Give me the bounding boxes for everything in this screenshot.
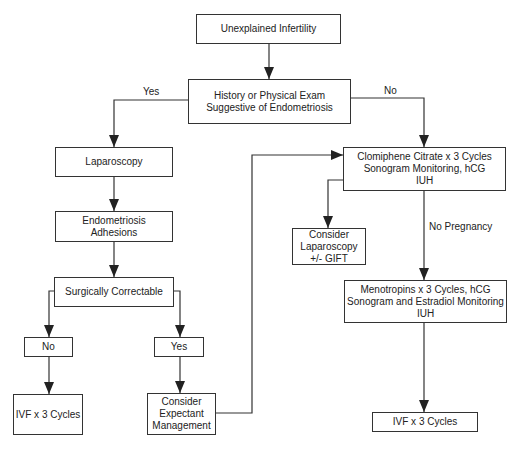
node-history-physical-exam: History or Physical Exam Suggestive of E… xyxy=(188,79,351,124)
node-ivf-left: IVF x 3 Cycles xyxy=(13,394,83,435)
node-endometriosis-adhesions: Endometriosis Adhesions xyxy=(55,211,173,242)
node-menotropins: Menotropins x 3 Cycles, hCG Sonogram and… xyxy=(344,280,507,323)
node-surgically-correctable: Surgically Correctable xyxy=(54,277,174,307)
node-consider-laparoscopy-gift: Consider Laparoscopy +/- GIFT xyxy=(292,228,366,265)
node-yes: Yes xyxy=(154,337,204,357)
node-consider-expectant-management: Consider Expectant Management xyxy=(147,393,216,435)
edge-label-no: No xyxy=(384,85,397,97)
node-no: No xyxy=(24,337,73,357)
edge-label-no-pregnancy: No Pregnancy xyxy=(429,221,492,233)
node-ivf-right: IVF x 3 Cycles xyxy=(372,412,478,432)
node-unexplained-infertility: Unexplained Infertility xyxy=(196,14,341,44)
node-clomiphene-citrate: Clomiphene Citrate x 3 Cycles Sonogram M… xyxy=(343,147,506,191)
node-laparoscopy: Laparoscopy xyxy=(55,147,173,177)
edge-label-yes: Yes xyxy=(143,86,159,98)
